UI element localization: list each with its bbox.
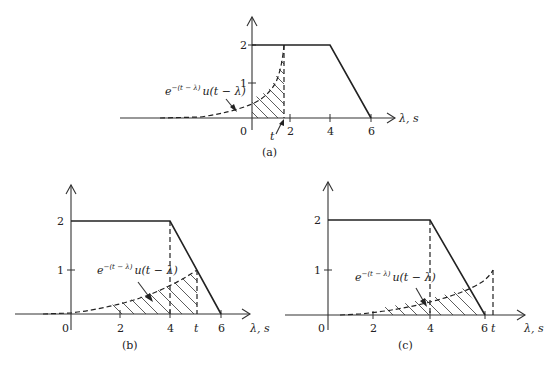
x-tick-2: 2 bbox=[287, 125, 294, 138]
x-tick-4: 4 bbox=[427, 322, 434, 335]
curve-label: e−(t − λ)u(t − λ) bbox=[97, 263, 178, 277]
x-axis-label: λ, s bbox=[398, 112, 419, 125]
signal-trapezoid bbox=[252, 45, 371, 118]
y-tick-2: 2 bbox=[57, 215, 64, 228]
x-tick-2: 2 bbox=[117, 322, 124, 335]
x-tick-0: 0 bbox=[318, 322, 325, 335]
x-tick-0: 0 bbox=[240, 125, 247, 138]
t-label: t bbox=[491, 322, 496, 335]
x-axis-label: λ, s bbox=[523, 322, 544, 335]
x-tick-2: 2 bbox=[370, 322, 377, 335]
panel-c: 2 1 0 2 4 6 t λ, s bbox=[285, 182, 544, 352]
hatched-overlap-area bbox=[48, 240, 270, 330]
convolution-figure: 2 1 0 2 4 6 λ, s bbox=[0, 0, 554, 366]
t-arrowhead-icon bbox=[279, 119, 284, 126]
curve-label: e−(t − λ)u(t − λ) bbox=[355, 270, 436, 284]
y-tick-1: 1 bbox=[314, 264, 321, 277]
signal-trapezoid bbox=[328, 220, 485, 315]
x-tick-6: 6 bbox=[368, 125, 375, 138]
curve-label: e−(t − λ)u(t − λ) bbox=[165, 84, 246, 98]
x-tick-0: 0 bbox=[62, 322, 69, 335]
caption-a: (a) bbox=[262, 146, 277, 159]
y-tick-2: 2 bbox=[240, 39, 247, 52]
y-tick-1: 1 bbox=[57, 264, 64, 277]
x-tick-4: 4 bbox=[167, 322, 174, 335]
hatched-overlap-area bbox=[230, 0, 330, 200]
caption-c: (c) bbox=[398, 339, 413, 352]
y-tick-2: 2 bbox=[314, 214, 321, 227]
t-label: t bbox=[194, 322, 199, 335]
x-tick-4: 4 bbox=[327, 125, 334, 138]
exponential-curve bbox=[160, 45, 284, 118]
t-label: t bbox=[270, 130, 275, 143]
label-arrowhead-icon bbox=[145, 293, 153, 302]
caption-b: (b) bbox=[122, 339, 138, 352]
x-tick-6: 6 bbox=[481, 322, 488, 335]
panel-a: 2 1 0 2 4 6 λ, s bbox=[120, 0, 419, 200]
label-arrowhead-icon bbox=[420, 298, 427, 307]
panel-b: 2 1 0 2 4 6 t λ, s bbox=[15, 185, 270, 352]
x-axis-label: λ, s bbox=[249, 322, 270, 335]
x-tick-6: 6 bbox=[218, 322, 225, 335]
